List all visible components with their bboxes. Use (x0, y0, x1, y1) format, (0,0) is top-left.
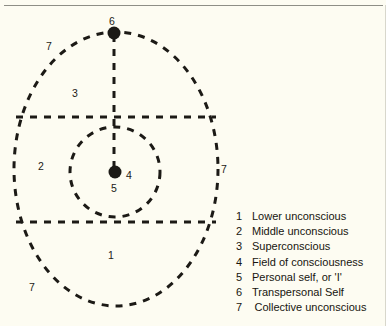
legend-item-number: 1 (236, 210, 252, 222)
legend-item: 2 Middle unconscious (236, 225, 386, 240)
diagram-label-7-top-left: 7 (46, 41, 52, 52)
figure-page: 6 7 3 2 4 5 7 1 7 1 Lower unconscious 2 … (0, 0, 386, 326)
personal-self-dot (109, 166, 122, 179)
legend-item-label: Middle unconscious (252, 225, 386, 237)
diagram-label-3-superconscious: 3 (72, 88, 78, 99)
legend-item: 7 Collective unconscious (236, 301, 386, 316)
legend-item-number: 2 (236, 225, 252, 237)
diagram-label-4-field-of-consciousness: 4 (126, 170, 132, 181)
legend-item-number: 7 (236, 301, 252, 313)
legend-item-label: Superconscious (252, 240, 386, 252)
legend-item-label: Collective unconscious (252, 301, 386, 313)
transpersonal-self-dot (108, 27, 121, 40)
legend-item: 6 Transpersonal Self (236, 286, 386, 301)
legend-item-number: 4 (236, 256, 252, 268)
legend-item-label: Personal self, or 'I' (252, 271, 386, 283)
diagram-label-7-right: 7 (221, 164, 227, 175)
legend-item-number: 3 (236, 240, 252, 252)
legend-item-label: Field of consciousness (252, 256, 386, 268)
diagram-label-2-middle-unconscious: 2 (38, 161, 44, 172)
legend-item: 5 Personal self, or 'I' (236, 271, 386, 286)
legend-item: 4 Field of consciousness (236, 256, 386, 271)
legend-item: 3 Superconscious (236, 240, 386, 255)
diagram-label-7-bottom-left: 7 (29, 282, 35, 293)
diagram-label-1-lower-unconscious: 1 (108, 250, 114, 261)
legend-item-number: 6 (236, 286, 252, 298)
legend-item: 1 Lower unconscious (236, 210, 386, 225)
diagram-label-6-transpersonal-self: 6 (109, 16, 115, 27)
legend-key: 1 Lower unconscious 2 Middle unconscious… (236, 210, 386, 316)
legend-item-label: Lower unconscious (252, 210, 386, 222)
legend-item-label: Transpersonal Self (252, 286, 386, 298)
legend-item-number: 5 (236, 271, 252, 283)
diagram-label-5-personal-self: 5 (111, 183, 117, 194)
